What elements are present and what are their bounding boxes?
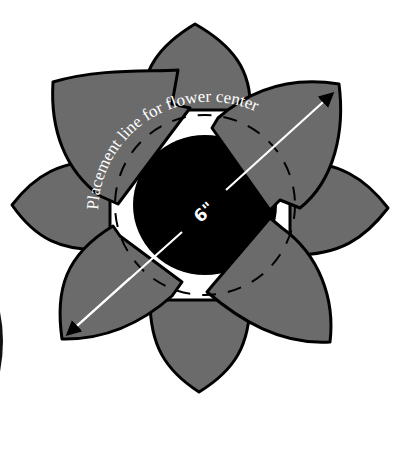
- edge-fragment: [0, 312, 3, 372]
- flower-pattern-diagram: Placement line for flower center 6": [0, 0, 406, 460]
